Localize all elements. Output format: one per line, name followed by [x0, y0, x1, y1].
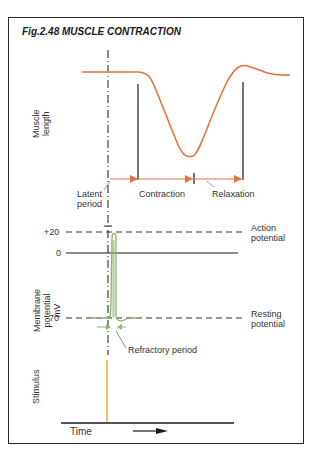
action-potential-label: Action potential — [251, 223, 285, 243]
time-arrow-head — [156, 428, 168, 434]
membrane-potential-axis-label: Membrane potential mV — [32, 289, 62, 332]
muscle-length-axis-label: Muscle length — [31, 109, 51, 138]
arrow-contraction — [185, 175, 193, 183]
contraction-label: Contraction — [139, 189, 185, 199]
arrow-relaxation — [234, 175, 242, 183]
arrow-latent — [130, 175, 138, 183]
tick-label-plus20: +20 — [44, 227, 59, 237]
action-potential-curve — [90, 234, 140, 321]
relaxation-label: Relaxation — [212, 189, 255, 199]
latent-period-label: Latent period — [77, 189, 102, 209]
resting-potential-label: Resting potential — [251, 309, 285, 329]
refractory-period-label: Refractory period — [128, 345, 197, 355]
tick-label-minus70: -70 — [46, 313, 59, 323]
muscle-length-curve — [82, 66, 290, 157]
time-axis-label: Time — [70, 427, 92, 437]
tick-label-zero: 0 — [56, 248, 61, 258]
stimulus-axis-label: Stimulus — [31, 369, 41, 404]
